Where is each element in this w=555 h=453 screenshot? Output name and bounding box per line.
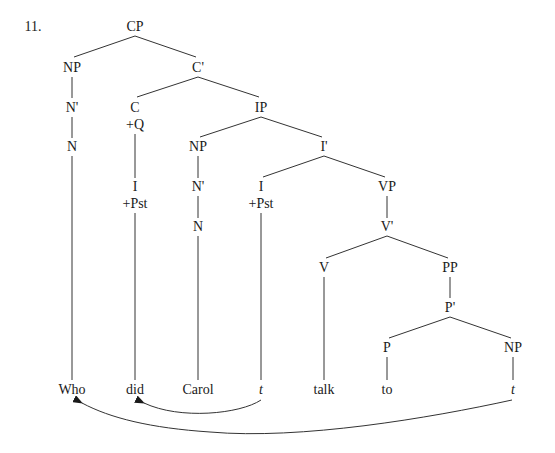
node-p: P: [383, 340, 391, 356]
edge-ibar-vp: [324, 156, 385, 177]
node-c-bar: C': [192, 60, 204, 76]
leaf-did: did: [126, 382, 144, 398]
leaf-to: to: [382, 382, 393, 398]
node-i-bar: I': [320, 139, 327, 155]
edge-ibar-i: [263, 156, 324, 177]
node-i-moved-feature: +Pst: [122, 196, 147, 212]
edge-cbar-ip: [198, 77, 259, 97]
node-np-spec-cp: NP: [63, 60, 81, 76]
edge-cp-np: [74, 36, 135, 57]
leaf-trace-i: t: [259, 382, 263, 398]
edge-vbar-pp: [387, 236, 448, 258]
arrow-trace-to-who: [82, 400, 512, 434]
node-i: I: [259, 179, 264, 195]
node-vp: VP: [378, 179, 396, 195]
leaf-who: Who: [58, 382, 85, 398]
node-p-bar: P': [445, 300, 455, 316]
node-v: V: [319, 260, 329, 276]
movement-arrows: [82, 400, 512, 434]
node-v-bar: V': [381, 219, 394, 235]
node-n-bar-carol: N': [192, 179, 205, 195]
node-n-carol: N: [193, 219, 203, 235]
node-i-moved: I: [133, 179, 138, 195]
node-n-bar-who: N': [66, 100, 79, 116]
node-np-obj: NP: [504, 340, 522, 356]
leaf-talk: talk: [314, 382, 335, 398]
node-n-who: N: [67, 139, 77, 155]
node-pp: PP: [442, 260, 458, 276]
edge-pbar-p: [389, 317, 450, 338]
node-cp: CP: [126, 19, 143, 35]
leaf-carol: Carol: [182, 382, 213, 398]
leaf-trace-np: t: [511, 382, 515, 398]
edge-pbar-np: [450, 317, 511, 338]
example-number: 11.: [25, 19, 42, 35]
node-c: C: [130, 100, 139, 116]
node-np-subj: NP: [189, 139, 207, 155]
node-i-feature: +Pst: [248, 196, 273, 212]
edge-vbar-v: [326, 236, 387, 258]
arrow-trace-to-did: [144, 400, 261, 413]
edge-ip-np: [200, 117, 261, 137]
node-c-feature: +Q: [126, 117, 144, 133]
edge-cp-cbar: [135, 36, 196, 57]
node-ip: IP: [255, 100, 267, 116]
edge-cbar-c: [137, 77, 198, 97]
edge-ip-ibar: [261, 117, 322, 137]
